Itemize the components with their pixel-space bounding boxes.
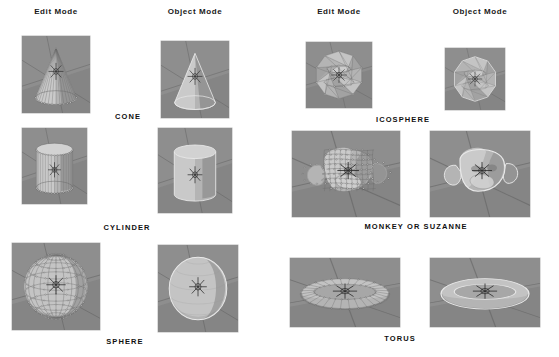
thumb-sphere-object: [158, 245, 238, 332]
cylinder-object-render: [158, 128, 232, 213]
cone-edit-render: [22, 36, 90, 113]
header-left-object: Object Mode: [155, 7, 235, 16]
caption-monkey: MONKEY OR SUZANNE: [356, 222, 476, 231]
header-left-edit: Edit Mode: [22, 7, 90, 16]
icosphere-object-render: [445, 48, 505, 110]
torus-edit-render: [290, 258, 400, 327]
sphere-edit-render: [12, 243, 100, 330]
caption-sphere: SPHERE: [85, 337, 165, 346]
sphere-object-render: [158, 245, 238, 332]
thumb-icosphere-object: [445, 48, 505, 110]
thumb-sphere-edit: [12, 243, 100, 330]
caption-icosphere: ICOSPHERE: [358, 115, 448, 124]
thumb-cylinder-object: [158, 128, 232, 213]
monkey-object-render: [430, 131, 530, 217]
thumb-cone-object: [161, 41, 229, 118]
thumb-cone-edit: [22, 36, 90, 113]
thumb-cylinder-edit: [22, 128, 87, 204]
monkey-edit-render: [292, 131, 400, 217]
thumb-monkey-object: [430, 131, 530, 217]
cone-object-render: [161, 41, 229, 118]
caption-torus: TORUS: [360, 334, 440, 343]
header-right-edit: Edit Mode: [305, 7, 373, 16]
cylinder-edit-render: [22, 128, 87, 204]
thumb-torus-edit: [290, 258, 400, 327]
caption-cylinder: CYLINDER: [82, 223, 172, 232]
icosphere-edit-render: [306, 42, 372, 108]
thumb-icosphere-edit: [306, 42, 372, 108]
thumb-torus-object: [430, 258, 540, 327]
caption-cone: CONE: [88, 112, 168, 121]
header-right-object: Object Mode: [440, 7, 520, 16]
thumb-monkey-edit: [292, 131, 400, 217]
torus-object-render: [430, 258, 540, 327]
